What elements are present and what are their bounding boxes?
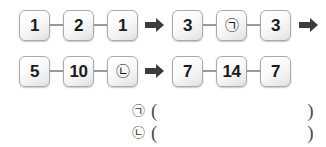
cell-r1-l1[interactable]: 1 [19,10,50,41]
connector-r2-l2 [94,70,107,72]
cell-r1-l3-value: 1 [118,17,127,34]
cell-r2-r1[interactable]: 7 [172,56,203,87]
equation-row-1: 1 2 1 3 ㉠ 3 [0,8,326,42]
cell-r2-r2[interactable]: 14 [216,56,247,87]
cell-r1-r2-value: ㉠ [225,18,239,32]
cell-r2-r3[interactable]: 7 [260,56,291,87]
answer-paren-close-2: ) [307,123,313,142]
cell-r2-l3-blank-nieun[interactable]: ㉡ [107,56,138,87]
answer-marker-giyeok-icon: ㉠ [132,104,145,117]
cell-r2-r1-value: 7 [183,63,192,80]
row-2-left-group: 5 10 ㉡ [19,56,138,87]
answer-input-nieun[interactable] [157,132,307,133]
cell-r2-l1-value: 5 [30,63,39,80]
answer-paren-close-1: ) [307,101,313,120]
cell-r2-l2-value: 10 [70,63,88,80]
cell-r1-l1-value: 1 [30,17,39,34]
cell-r2-r2-value: 14 [223,63,241,80]
row-1-right-group: 3 ㉠ 3 [172,10,291,41]
cell-r2-l3-value: ㉡ [116,64,130,78]
right-arrow-icon-r1-middle [144,15,166,35]
answer-input-giyeok[interactable] [157,110,307,111]
connector-r2-l1 [50,70,63,72]
cell-r2-r3-value: 7 [271,63,280,80]
connector-r1-l1 [50,24,63,26]
answer-marker-nieun-icon: ㉡ [132,126,145,139]
cell-r1-r3[interactable]: 3 [260,10,291,41]
worksheet-canvas: 1 2 1 3 ㉠ 3 [0,0,326,147]
right-arrow-icon-r2-middle [144,61,166,81]
cell-r1-l3[interactable]: 1 [107,10,138,41]
row-1-left-group: 1 2 1 [19,10,138,41]
equation-row-2: 5 10 ㉡ 7 14 7 [0,54,326,88]
connector-r2-r2 [247,70,260,72]
answer-line-giyeok: ㉠ ( ) [132,99,314,121]
cell-r1-r1-value: 3 [183,17,192,34]
row-2-right-group: 7 14 7 [172,56,291,87]
cell-r1-r1[interactable]: 3 [172,10,203,41]
right-arrow-icon-r1-trailing [298,15,320,35]
cell-r1-r3-value: 3 [271,17,280,34]
cell-r1-r2-blank-giyeok[interactable]: ㉠ [216,10,247,41]
cell-r1-l2-value: 2 [74,17,83,34]
answer-line-nieun: ㉡ ( ) [132,121,314,143]
connector-r1-l2 [94,24,107,26]
connector-r2-r1 [203,70,216,72]
connector-r1-r1 [203,24,216,26]
cell-r1-l2[interactable]: 2 [63,10,94,41]
connector-r1-r2 [247,24,260,26]
cell-r2-l1[interactable]: 5 [19,56,50,87]
cell-r2-l2[interactable]: 10 [63,56,94,87]
